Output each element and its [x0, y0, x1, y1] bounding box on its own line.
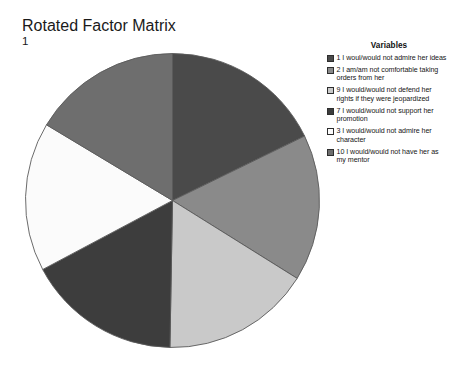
legend-item-label: 7 I would/would not support her promotio…: [337, 107, 450, 124]
legend-color-swatch: [327, 55, 334, 62]
legend-item-label: 3 I would/would not admire her character: [337, 127, 450, 144]
chart-subtitle: 1: [22, 35, 176, 47]
legend-color-swatch: [327, 108, 334, 115]
legend-item-label: 9 I would/would not defend her rights if…: [337, 86, 450, 103]
pie-chart-svg: [24, 50, 322, 352]
legend-item-label: 2 I am/am not comfortable taking orders …: [337, 66, 450, 83]
page-title: Rotated Factor Matrix: [22, 17, 176, 34]
legend-item[interactable]: 7 I would/would not support her promotio…: [327, 107, 449, 124]
legend-color-swatch: [327, 67, 334, 74]
legend-item[interactable]: 3 I would/would not admire her character: [327, 127, 449, 144]
legend-color-swatch: [327, 87, 334, 94]
pie-chart: [24, 50, 322, 352]
chart-legend: Variables 1 I woul/would not admire her …: [327, 41, 449, 168]
legend-title: Variables: [329, 41, 449, 50]
legend-item[interactable]: 10 I would/would not have her as my ment…: [327, 148, 449, 165]
legend-item[interactable]: 2 I am/am not comfortable taking orders …: [327, 66, 449, 83]
legend-color-swatch: [327, 128, 334, 135]
pie-slice-group: [26, 54, 320, 348]
legend-color-swatch: [327, 149, 334, 156]
chart-title-block: Rotated Factor Matrix 1: [22, 17, 176, 48]
legend-item-list: 1 I woul/would not admire her ideas2 I a…: [327, 54, 449, 165]
legend-item-label: 10 I would/would not have her as my ment…: [337, 148, 450, 165]
legend-item[interactable]: 1 I woul/would not admire her ideas: [327, 54, 449, 63]
legend-item[interactable]: 9 I would/would not defend her rights if…: [327, 86, 449, 103]
legend-item-label: 1 I woul/would not admire her ideas: [337, 54, 447, 63]
